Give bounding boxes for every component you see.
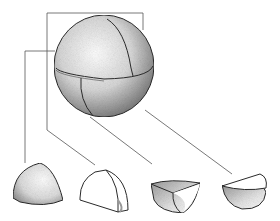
piece-4 [222,174,266,209]
leader-line-piece-3 [90,117,152,164]
illustration: Line illustration of a sphere divided in… [0,0,280,221]
sphere-division-diagram [0,0,280,221]
whole-sphere [54,15,154,117]
piece-3 [151,181,200,213]
piece-1 [13,163,63,205]
piece-2 [80,170,128,212]
leader-line-piece-4 [145,110,232,174]
leader-line-piece-1 [25,51,55,163]
